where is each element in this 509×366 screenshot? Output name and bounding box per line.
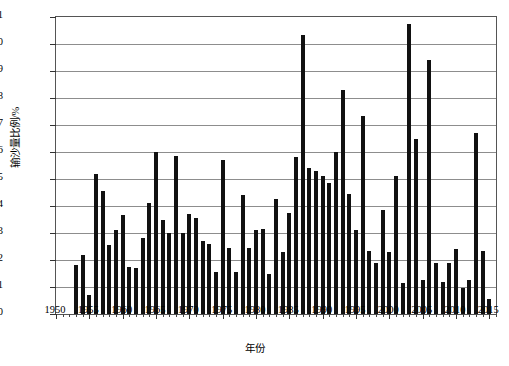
bar (194, 218, 198, 314)
x-axis-tick-label: 2015 (468, 304, 508, 315)
bar (414, 139, 418, 315)
bar (167, 233, 171, 314)
y-axis-tick-label: 7 (0, 118, 3, 128)
bar (114, 230, 118, 314)
bar (427, 60, 431, 314)
y-axis-tick-label: 3 (0, 226, 3, 236)
y-axis-tick-label: 4 (0, 199, 3, 209)
bar (147, 203, 151, 314)
chart-figure: 输沙量比例/% 01234567891011 19501955196019651… (0, 0, 509, 366)
bar (121, 215, 125, 314)
y-axis-title: 输沙量比例/% (10, 83, 21, 193)
bar (474, 133, 478, 314)
bar (407, 24, 411, 314)
bar (187, 214, 191, 314)
bar (321, 176, 325, 314)
plot-area (55, 16, 497, 315)
y-axis-tick-label: 6 (0, 145, 3, 155)
bar (154, 152, 158, 314)
y-axis-tick-label: 10 (0, 37, 3, 47)
bar-series (56, 17, 496, 314)
bar (101, 191, 105, 314)
bar (181, 233, 185, 314)
y-axis-tick-label: 9 (0, 64, 3, 74)
y-axis-tick-label: 1 (0, 280, 3, 290)
bar (314, 171, 318, 314)
y-axis-tick-label: 0 (0, 307, 3, 317)
bar (381, 210, 385, 314)
bar (327, 183, 331, 314)
bar (394, 176, 398, 314)
bar (301, 35, 305, 314)
y-axis-tick-label: 11 (0, 10, 3, 20)
bar (221, 160, 225, 314)
bar (347, 194, 351, 314)
bar (261, 229, 265, 314)
bar (287, 213, 291, 314)
bar (361, 116, 365, 314)
y-axis-tick-label: 8 (0, 91, 3, 101)
bar (241, 195, 245, 314)
bar (94, 174, 98, 314)
bar (341, 90, 345, 314)
bar (254, 230, 258, 314)
y-axis-tick-label: 2 (0, 253, 3, 263)
bar (307, 168, 311, 314)
bar (334, 152, 338, 314)
bar (141, 238, 145, 314)
bar (294, 157, 298, 314)
bar (161, 220, 165, 315)
bar (354, 230, 358, 314)
bar (174, 156, 178, 314)
bar (274, 199, 278, 314)
x-axis-title: 年份 (0, 340, 509, 355)
y-axis-tick-label: 5 (0, 172, 3, 182)
